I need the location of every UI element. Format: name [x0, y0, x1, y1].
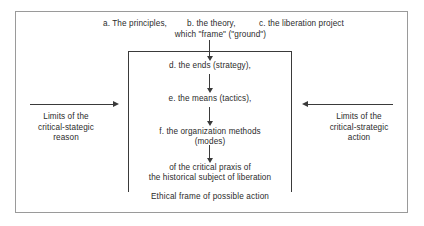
- arrow-down-to-means: [209, 74, 210, 89]
- left-caption-line2: critical-stategic: [14, 123, 118, 134]
- arrowhead-pointing-left: [302, 101, 308, 107]
- arrow-line-right-to-center: [307, 104, 393, 105]
- node-organization-methods: f. the organization methods (modes): [128, 127, 292, 147]
- left-caption-limits-reason: Limits of the critical-stategic reason: [14, 112, 118, 144]
- diagram-canvas: a. The principles, b. the theory, c. the…: [0, 0, 424, 226]
- node-ends-strategy: d. the ends (strategy),: [128, 61, 292, 71]
- arrowhead-pointing-right: [113, 101, 119, 107]
- arrow-down-to-methods: [209, 107, 210, 122]
- inner-frame-caption: Ethical frame of possible action: [128, 192, 292, 201]
- left-caption-line3: reason: [14, 133, 118, 144]
- header-label-a: a. The principles,: [103, 19, 167, 28]
- arrow-down-to-ends: [209, 40, 210, 57]
- header-label-c: c. the liberation project: [259, 19, 344, 28]
- node-critical-praxis-line1: of the critical praxis of: [128, 163, 292, 173]
- header-label-b: b. the theory,: [187, 19, 236, 28]
- left-caption-line1: Limits of the: [14, 112, 118, 123]
- arrow-down-to-praxis: [209, 145, 210, 159]
- node-organization-methods-line1: f. the organization methods: [128, 127, 292, 137]
- node-means-tactics: e. the means (tactics),: [128, 94, 292, 104]
- node-critical-praxis-line2: the historical subject of liberation: [128, 173, 292, 183]
- right-caption-line1: Limits of the: [307, 112, 411, 123]
- right-caption-limits-action: Limits of the critical-strategic action: [307, 112, 411, 144]
- node-organization-methods-line2: (modes): [128, 137, 292, 147]
- right-caption-line3: action: [307, 133, 411, 144]
- right-caption-line2: critical-strategic: [307, 123, 411, 134]
- header-subtitle: which "frame" ("ground"): [15, 30, 408, 39]
- arrow-line-left-to-center: [30, 104, 116, 105]
- node-critical-praxis: of the critical praxis of the historical…: [128, 163, 292, 183]
